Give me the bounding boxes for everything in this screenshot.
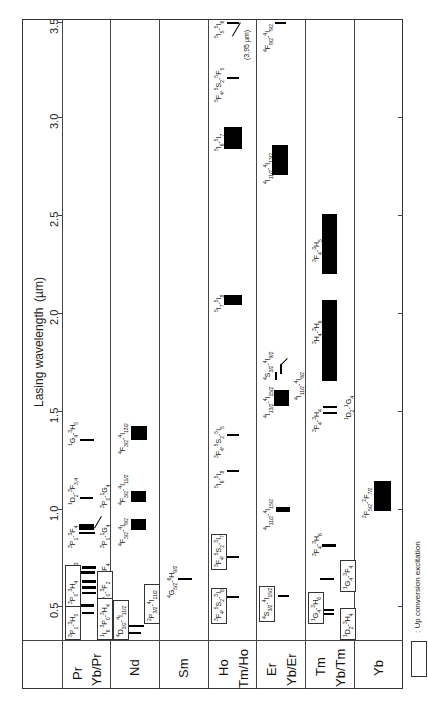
pr-label-1d2-3f34: 1D2-3F3,4 xyxy=(66,478,80,505)
pr-bar-3p1-3f4 xyxy=(79,524,94,530)
er-label-4i112-4i132-b: 4I11/2-4I9/2 xyxy=(292,372,306,400)
tick-right-3.0 xyxy=(398,117,403,118)
ho-label-5i6-5i8: 5I6-5I8 xyxy=(212,471,226,488)
row-label-ybtm: Yb/Tm xyxy=(333,649,348,687)
axis-unit: (µm) xyxy=(32,277,46,302)
ho-box-5s2-5i8: 3F4,5S2-3I8 xyxy=(211,588,227,624)
row-label-nd: Nd xyxy=(127,659,142,676)
nd-bar-4f32-4i112 xyxy=(131,491,146,502)
nd-line-2p32 xyxy=(128,625,144,627)
axis-divider xyxy=(62,19,63,689)
tick-label-1.0: 1.0 xyxy=(48,506,60,521)
er-line-4i112-4i132-a xyxy=(275,372,277,380)
ybpr-box-1i6-3p0-3h4: 1I6 3P0-3H4 xyxy=(97,598,113,640)
er-bar-4i132-4i152 xyxy=(274,390,289,406)
pr-box-3p0-3h4: 3P0-3H4 xyxy=(65,565,81,607)
er-line-4s32-4i152 xyxy=(278,595,289,597)
ho-box-5s2-5i7: 3F4,5S2-3I7 xyxy=(211,534,227,570)
sm-line-4g52-6h92 xyxy=(178,578,192,580)
ho-label-5i6-5i7: 5I6-5I7 xyxy=(212,134,226,151)
er-label-4f92-4i92: 4F9/2-4I9/2 xyxy=(261,24,275,52)
tick-label-0.5: 0.5 xyxy=(48,603,60,618)
ho-line-5i5-5i6 xyxy=(227,22,239,24)
tm-line-1d2-1g4 xyxy=(323,406,337,408)
tm-label-3f4-3h4: 3F4-3H4 xyxy=(310,409,324,432)
row-label-ybpr: Yb/Pr xyxy=(89,653,104,686)
nd-bar-4f32-4i92 xyxy=(131,519,146,530)
legend-upconversion-swatch xyxy=(411,641,427,677)
tick-right-0.5 xyxy=(398,606,403,607)
er-label-4i132-4i152: 4I13/2-4I15/2 xyxy=(261,387,275,418)
col-sep-5 xyxy=(305,19,306,689)
tick-right-2.5 xyxy=(398,215,403,216)
ho-line-5f4-5f5 xyxy=(227,77,239,79)
nd-label-4f32-4i92: 4F3/2-4I9/2 xyxy=(116,518,130,546)
tick-label-2.5: 2.5 xyxy=(48,212,60,227)
col-sep-3 xyxy=(208,19,209,689)
nd-line-4d32 xyxy=(128,632,141,634)
yb-label-2f52-2f72: 2F5/2-2F7/2 xyxy=(360,488,374,518)
tm-label-1d2-1g4: 1D2-1G4 xyxy=(342,396,356,420)
ho-label-5i7-5i8: 5I7-5I8 xyxy=(212,295,226,312)
nd-label-4f32-4i112: 4F3/2-4I11/2 xyxy=(116,475,130,505)
er-box-4s32-4i152: 4S3/2-4I15/2 xyxy=(259,586,275,622)
er-label-4s32-4i92: 4S3/2-4I9/2 xyxy=(261,352,275,380)
er-label-4i112-4i132: 4I11/2-4I13/2 xyxy=(261,153,275,184)
tick-right-1.0 xyxy=(398,509,403,510)
er-label-4i112-4i152: 4I11/2-4I15/2 xyxy=(261,499,275,530)
pr-line-3p0-3f4 xyxy=(80,571,95,574)
label-row-divider xyxy=(22,640,403,641)
ho-bar-5i6-5i7 xyxy=(224,127,242,149)
nd-box-2p32-4i112: 2P3/2-4I11/2 xyxy=(144,584,160,624)
sm-label-4g52-6h92: 4G5/2-6H9/2 xyxy=(165,566,179,598)
row-label-sm: Sm xyxy=(176,659,191,679)
pr-line-3p0-3f2 xyxy=(82,592,96,594)
ho-label-395: (3.95 µm) xyxy=(243,30,251,60)
pr-line-3p0-3f3 xyxy=(82,566,96,569)
tm-bar-3f4-3h5 xyxy=(322,214,337,274)
nd-bar-4f32-4i132 xyxy=(131,426,147,440)
tick-label-3.0: 3.0 xyxy=(48,114,60,129)
col-sep-4 xyxy=(256,19,257,689)
pr-box-3p1-3h5: 3P1-3H5 xyxy=(65,606,81,640)
ho-line-5i6-5i8 xyxy=(227,470,239,472)
ho-line-5s2-5i8 xyxy=(227,596,239,598)
ybtm-box-1d2-3h4: 1D2-3H4 xyxy=(340,608,356,640)
tick-label-2.0: 2.0 xyxy=(48,310,60,325)
ho-line-5f4-5i5 xyxy=(227,434,239,436)
pr-line-1g4-3h5 xyxy=(80,439,94,441)
tm-line-3f4-3h6 xyxy=(322,544,336,547)
pr-line-3p1-3f4-b xyxy=(79,532,95,534)
ho-bar-5i7-5i8 xyxy=(224,295,242,305)
axis-title: Lasing wavelength xyxy=(32,308,46,407)
pr-line-3p0-3h4 xyxy=(80,604,94,607)
row-label-pr: Pr xyxy=(70,667,85,680)
pr-line-3p1-3h5 xyxy=(82,612,94,614)
tm-box-1g4-3h6: 1G4-3H6 xyxy=(308,592,324,624)
tm-line-3f4-3h4 xyxy=(323,412,337,414)
tick-right-1.5 xyxy=(398,411,403,412)
nd-box-4d32-4i112: 4D3/2-4I11/2 xyxy=(113,600,129,640)
ho-label-5f4-5i5: 3F4,5S2-5I5 xyxy=(212,426,226,458)
tm-bar-3h4-3h6 xyxy=(322,300,337,381)
row-label-tmho: Tm/Ho xyxy=(236,649,251,688)
ybtm-box-1g4-3f4: 1G4-3F4 xyxy=(340,560,356,592)
tm-line-1g4-3f4 xyxy=(320,578,334,580)
pr-label-3p1-3f4: 3P1-3F4 xyxy=(66,526,80,548)
tm-label-3f4-3h5: 3F4-3H5 xyxy=(310,239,324,262)
ho-line-5s2-5i7 xyxy=(227,556,239,558)
er-bar-4i112-4i152 xyxy=(276,507,290,512)
tick-label-3.5: 3.5 xyxy=(48,19,60,34)
tm-label-3f4-3h6: 3F4-3H6 xyxy=(310,533,324,556)
pr-line-1d2-3f34 xyxy=(80,497,93,499)
pr-line-3p0-3h6-a xyxy=(82,580,96,583)
row-label-yber: Yb/Er xyxy=(284,653,299,686)
tick-right-2.0 xyxy=(398,313,403,314)
nd-label-4f32-4i132: 4F3/2-4I13/2 xyxy=(116,423,130,454)
legend-upconversion-text: : Up conversion excitation xyxy=(413,541,422,633)
row-label-tm: Tm xyxy=(313,657,328,676)
yb-bar-2f52-2f72 xyxy=(374,481,391,511)
ho-label-5f4-5f5: 5F4,5S2-5F5 xyxy=(212,68,226,102)
pr-label-3p0-1g4: 3P0-1G4 xyxy=(98,484,112,508)
er-line-4f92-4i92 xyxy=(275,22,286,24)
